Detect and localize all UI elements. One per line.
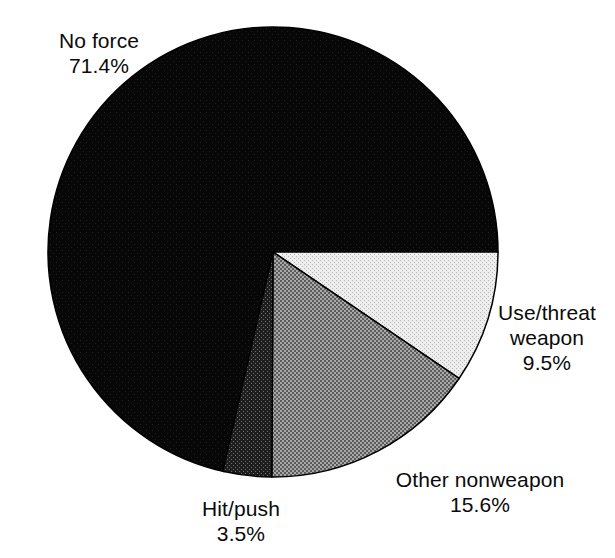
pie-label-hit-push-percent: 3.5% — [175, 521, 307, 546]
pie-label-use-threat-weapon-text-line2: weapon — [483, 325, 611, 350]
pie-label-other-nonweapon-text: Other nonweapon — [366, 467, 594, 492]
pie-label-use-threat-weapon: Use/threat weapon 9.5% — [483, 300, 611, 375]
pie-label-other-nonweapon: Other nonweapon 15.6% — [366, 467, 594, 517]
pie-slices — [48, 27, 498, 477]
pie-label-hit-push: Hit/push 3.5% — [175, 496, 307, 546]
pie-label-no-force: No force 71.4% — [24, 28, 174, 78]
pie-label-hit-push-text: Hit/push — [175, 496, 307, 521]
pie-label-use-threat-weapon-text-line1: Use/threat — [483, 300, 611, 325]
pie-chart: No force 71.4% Use/threat weapon 9.5% Ot… — [0, 0, 615, 558]
pie-label-no-force-percent: 71.4% — [24, 53, 174, 78]
pie-label-use-threat-weapon-percent: 9.5% — [483, 350, 611, 375]
pie-label-other-nonweapon-percent: 15.6% — [366, 492, 594, 517]
pie-label-no-force-text: No force — [24, 28, 174, 53]
